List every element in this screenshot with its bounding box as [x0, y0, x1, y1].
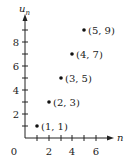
x-tick-label-6: 6	[93, 146, 99, 157]
point-1-1	[35, 124, 39, 128]
point-label-3: (3, 5)	[65, 73, 92, 84]
x-axis-arrow-icon	[107, 136, 114, 141]
x-tick-label-4: 4	[69, 146, 75, 157]
point-4-7	[70, 52, 74, 56]
x-axis-label: n	[117, 132, 123, 143]
point-2-3	[47, 100, 51, 104]
point-label-1: (1, 1)	[41, 121, 68, 132]
point-label-4: (4, 7)	[76, 49, 103, 60]
y-tick-label-8: 8	[13, 37, 19, 48]
point-label-5: (5, 9)	[88, 25, 115, 36]
point-label-2: (2, 3)	[53, 97, 80, 108]
y-axis-label: un	[19, 3, 30, 17]
point-5-9	[82, 28, 86, 32]
chart: 0 2 4 6 2 4 6 8 n un (1, 1) (2, 3) (3, 5…	[0, 0, 125, 164]
y-tick-label-6: 6	[13, 61, 19, 72]
y-tick-label-2: 2	[13, 109, 19, 120]
origin-label: 0	[11, 146, 17, 157]
x-tick-label-2: 2	[46, 146, 52, 157]
point-3-5	[59, 76, 63, 80]
y-tick-label-4: 4	[13, 85, 19, 96]
